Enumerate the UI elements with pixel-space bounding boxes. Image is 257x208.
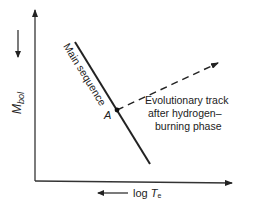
y-axis-label-main: M [10, 104, 24, 114]
evolutionary-track-label: Evolutionary track after hydrogen– burni… [145, 94, 231, 132]
x-axis [35, 181, 232, 183]
x-axis-label-prefix: log [133, 187, 151, 199]
point-a-marker [115, 108, 120, 113]
evolutionary-track-label-line-3: burning phase [155, 120, 222, 132]
y-axis-label-sub: bol [16, 91, 26, 104]
main-sequence-label: Main sequence [61, 41, 109, 108]
evolutionary-track-label-line-1: Evolutionary track [145, 94, 229, 106]
x-axis-label-sub: e [157, 192, 161, 199]
hr-diagram: Mbol log Te Main sequence A Evolutionary… [0, 0, 257, 208]
svg-text:Mbol: Mbol [10, 91, 26, 114]
x-axis-label: log Te [133, 187, 161, 199]
evolutionary-track-label-line-2: after hydrogen– [148, 107, 222, 119]
main-sequence-line [75, 42, 150, 164]
point-a-label: A [103, 109, 111, 121]
y-axis-label: Mbol [10, 91, 26, 114]
